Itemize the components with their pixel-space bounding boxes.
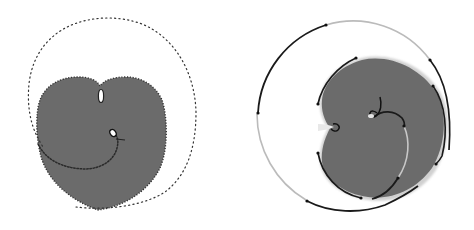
right-panel [256,21,449,211]
left-cusp-loop [98,90,103,103]
right-center-glint [368,114,374,118]
left-panel [28,18,196,210]
diagram-canvas [0,0,474,230]
